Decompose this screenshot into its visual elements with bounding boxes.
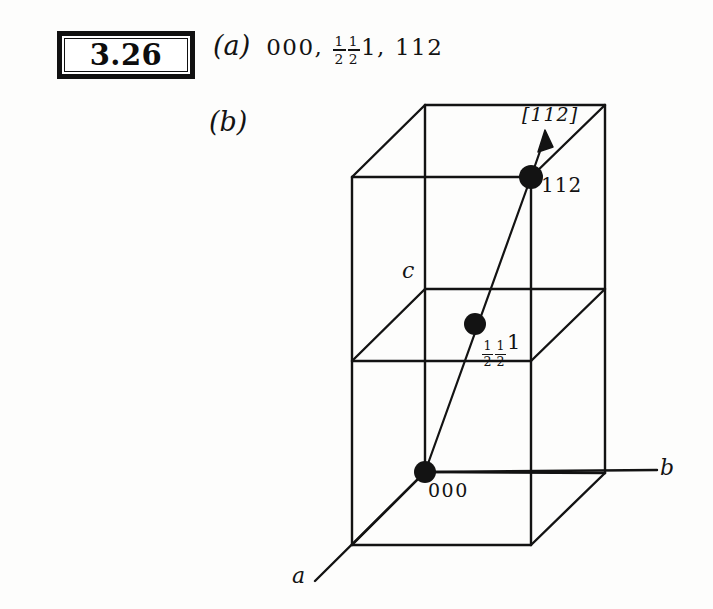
lattice-point-top — [519, 165, 543, 189]
fraction-numerator: 1 — [482, 340, 492, 353]
fraction-denominator: 2 — [482, 356, 492, 369]
fraction-one-half-a: 1 2 — [482, 340, 493, 369]
edge-depth-middle-left — [352, 289, 425, 361]
worksheet-page: 3.26 (a) 000 , 1 2 1 2 1 , 112 — [0, 0, 713, 609]
direction-arrow-head — [538, 130, 553, 152]
point-label-112: 112 — [541, 173, 582, 197]
axis-a — [315, 472, 425, 581]
axis-b — [425, 470, 657, 472]
axis-label-a: a — [292, 563, 305, 588]
point-label-000: 000 — [428, 479, 469, 501]
direction-label-112: [112] — [522, 103, 578, 125]
unit-cell-diagram — [0, 0, 713, 609]
fraction-one-half-b: 1 2 — [495, 340, 506, 369]
point-label-half-half-one: 1 2 1 2 1 — [481, 330, 520, 368]
axis-label-b: b — [660, 455, 674, 480]
fraction-denominator: 2 — [495, 356, 505, 369]
problem-number: 3.26 — [90, 41, 163, 70]
edge-depth-bottom-right — [531, 473, 605, 545]
edge-depth-middle-right — [531, 289, 605, 361]
point-label-index-one: 1 — [507, 330, 520, 354]
fraction-numerator: 1 — [495, 340, 505, 353]
edge-depth-top-left — [352, 105, 425, 177]
axis-label-c: c — [402, 258, 414, 283]
